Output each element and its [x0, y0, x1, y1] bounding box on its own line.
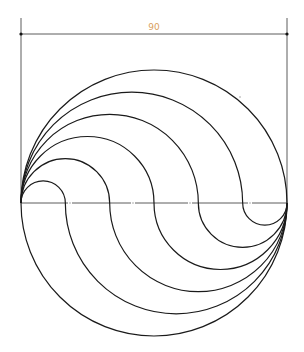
- geometry-group: [21, 70, 287, 336]
- dimension-label: 90: [148, 22, 160, 32]
- wave-curve: [21, 159, 287, 292]
- wave-curve: [21, 114, 287, 247]
- dimension-tick-left: [19, 32, 22, 35]
- yin-yang-wave-drawing: 90: [0, 0, 304, 352]
- stray-dot: [239, 96, 240, 97]
- dimension-group: [19, 18, 288, 203]
- dimension-tick-right: [285, 32, 288, 35]
